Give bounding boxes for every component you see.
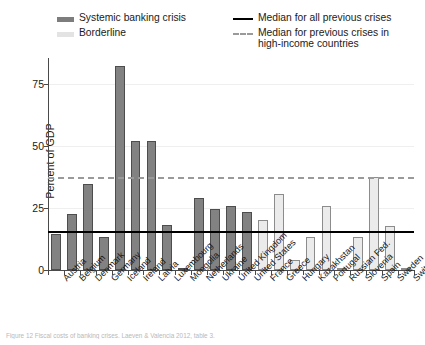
solid-line-swatch-icon xyxy=(233,18,253,20)
dashed-line-swatch-icon xyxy=(233,33,253,35)
legend-label-median-highincome: Median for previous crises in high-incom… xyxy=(258,27,389,50)
legend-item-median-highincome: Median for previous crises in high-incom… xyxy=(233,27,391,50)
x-axis-label-netherlands: Netherlands xyxy=(204,276,211,283)
figure-caption: Figure 12 Fiscal costs of banking crises… xyxy=(6,332,306,339)
x-axis-label-switzerland: Switzerland xyxy=(411,276,418,283)
x-axis-label-hungary: Hungary xyxy=(300,276,307,283)
x-axis-label-portugal: Portugal xyxy=(331,276,338,283)
x-axis-label-luxembourg: Luxembourg xyxy=(172,276,179,283)
x-axis-label-united-states: United States xyxy=(252,276,259,283)
legend-label-median-all: Median for all previous crises xyxy=(258,12,391,24)
legend-item-systemic: Systemic banking crisis xyxy=(57,12,186,24)
x-axis-label-spain: Spain xyxy=(379,276,386,283)
borderline-swatch-icon xyxy=(57,32,74,37)
x-axis-label-denmark: Denmark xyxy=(93,276,100,283)
legend-column-right: Median for all previous crises Median fo… xyxy=(233,12,391,53)
chart-legend: Systemic banking crisis Borderline Media… xyxy=(0,0,425,52)
legend-label-borderline: Borderline xyxy=(79,27,126,39)
x-axis-label-united-kingdom: United Kingdom xyxy=(236,276,243,283)
x-axis-label-kazakhstan: Kazakhstan xyxy=(316,276,323,283)
legend-item-borderline: Borderline xyxy=(57,27,186,39)
bar-series-group xyxy=(48,52,414,270)
x-axis-label-ukraine: Ukraine xyxy=(220,276,227,283)
x-axis-label-france: France xyxy=(268,276,275,283)
median-all-crises-line xyxy=(48,231,414,233)
x-axis-label-sweden: Sweden xyxy=(395,276,402,283)
y-axis-line xyxy=(48,58,49,270)
median-high-income-line xyxy=(48,177,414,179)
y-axis-tick-label: 75 xyxy=(32,78,44,90)
y-axis-tick-label: 25 xyxy=(32,202,44,214)
bar-austria xyxy=(51,234,61,270)
x-axis-label-mongolia: Mongolia xyxy=(188,276,195,283)
x-axis-label-ireland: Ireland xyxy=(141,276,148,283)
x-axis-label-germany: Germany xyxy=(109,276,116,283)
x-axis-label-austria: Austria xyxy=(61,276,68,283)
x-axis-tick-mark xyxy=(48,270,49,275)
legend-item-median-all: Median for all previous crises xyxy=(233,12,391,24)
x-axis-label-slovenia: Slovenia xyxy=(363,276,370,283)
x-axis-label-belgium: Belgium xyxy=(77,276,84,283)
legend-label-systemic: Systemic banking crisis xyxy=(79,12,186,24)
x-axis-label-greece: Greece xyxy=(284,276,291,283)
bar-iceland xyxy=(115,66,125,270)
x-axis-label-latvia: Latvia xyxy=(156,276,163,283)
y-axis-tick-label: 50 xyxy=(32,140,44,152)
systemic-swatch-icon xyxy=(57,17,74,22)
x-axis-label-russian-fed: Russian Fed. xyxy=(347,276,354,283)
plot-area: Percent of GDP 0255075 xyxy=(48,52,414,270)
legend-column-left: Systemic banking crisis Borderline xyxy=(57,12,186,41)
bar-latvia xyxy=(147,141,157,270)
figure-bar-chart: Systemic banking crisis Borderline Media… xyxy=(0,0,425,345)
bar-denmark xyxy=(83,184,93,270)
x-axis-label-iceland: Iceland xyxy=(125,276,132,283)
